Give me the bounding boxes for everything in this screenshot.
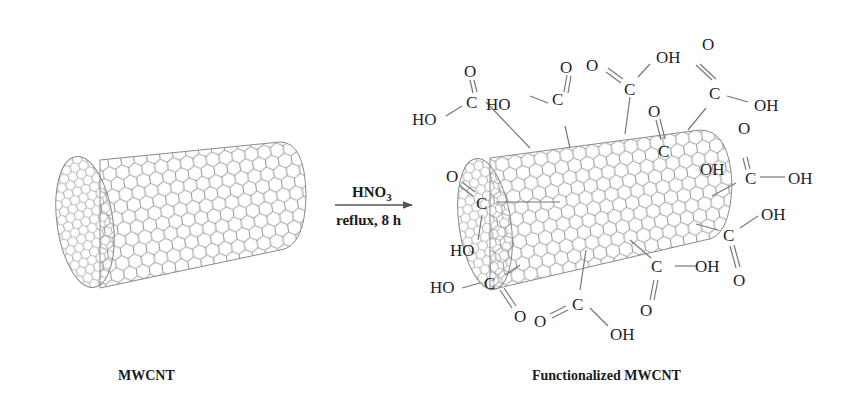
svg-text:HO: HO xyxy=(430,278,455,297)
svg-text:OH: OH xyxy=(761,205,786,224)
svg-text:HO: HO xyxy=(486,95,511,114)
reactant-caption: MWCNT xyxy=(118,368,175,384)
svg-text:C: C xyxy=(476,194,487,213)
svg-text:O: O xyxy=(738,119,750,138)
mwcnt-nanotube xyxy=(48,142,306,291)
svg-text:O: O xyxy=(733,271,745,290)
svg-text:HO: HO xyxy=(412,110,437,129)
reagent-label: HNO3 xyxy=(352,184,392,203)
reaction-arrow: HNO3 reflux, 8 h xyxy=(335,184,412,228)
svg-text:OH: OH xyxy=(700,160,725,179)
svg-text:C: C xyxy=(723,226,734,245)
svg-text:C: C xyxy=(709,84,720,103)
svg-text:C: C xyxy=(651,257,662,276)
svg-text:OH: OH xyxy=(610,325,635,344)
svg-text:O: O xyxy=(560,58,572,77)
reaction-diagram: HNO3 reflux, 8 h xyxy=(0,0,864,401)
svg-text:O: O xyxy=(640,301,652,320)
svg-text:C: C xyxy=(484,274,495,293)
functionalized-nanotube xyxy=(450,130,732,293)
svg-text:C: C xyxy=(624,80,635,99)
svg-text:O: O xyxy=(464,62,476,81)
svg-text:C: C xyxy=(466,93,477,112)
product-caption: Functionalized MWCNT xyxy=(532,368,681,384)
svg-text:C: C xyxy=(552,90,563,109)
svg-text:C: C xyxy=(745,169,756,188)
svg-text:C: C xyxy=(658,142,669,161)
svg-text:O: O xyxy=(586,56,598,75)
svg-text:O: O xyxy=(514,307,526,326)
svg-text:C: C xyxy=(572,295,583,314)
svg-text:OH: OH xyxy=(656,48,681,67)
svg-text:OH: OH xyxy=(788,169,813,188)
svg-text:O: O xyxy=(534,312,546,331)
svg-text:O: O xyxy=(702,35,714,54)
svg-text:OH: OH xyxy=(695,257,720,276)
svg-text:OH: OH xyxy=(754,96,779,115)
svg-text:O: O xyxy=(648,102,660,121)
svg-text:HO: HO xyxy=(450,241,475,260)
conditions-label: reflux, 8 h xyxy=(336,212,402,228)
svg-text:O: O xyxy=(446,167,458,186)
